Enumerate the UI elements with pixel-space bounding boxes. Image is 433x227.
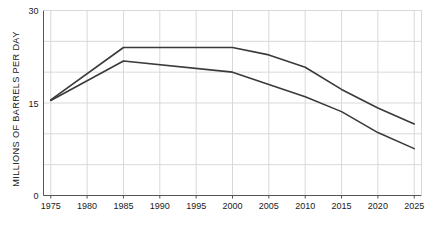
x-tick-label: 1985 [113, 201, 133, 211]
x-tick-label: 1995 [186, 201, 206, 211]
y-axis-tick-labels: 01530 [28, 6, 38, 201]
y-tick-label: 0 [33, 191, 38, 201]
x-tick-label: 1980 [77, 201, 97, 211]
chart-plot-area: 1975198019851990199520002005201020152020… [0, 0, 433, 227]
x-tick-label: 2005 [259, 201, 279, 211]
x-tick-label: 1990 [150, 201, 170, 211]
oil-production-line-chart: MILLIONS OF BARRELS PER DAY 197519801985… [0, 0, 433, 227]
y-tick-label: 15 [28, 99, 38, 109]
y-tick-label: 30 [28, 6, 38, 16]
x-tick-label: 2010 [295, 201, 315, 211]
x-tick-label: 1975 [41, 201, 61, 211]
x-tick-label: 2000 [222, 201, 242, 211]
x-tick-label: 2020 [368, 201, 388, 211]
x-axis-tick-labels: 1975198019851990199520002005201020152020… [41, 196, 424, 211]
x-tick-label: 2025 [404, 201, 424, 211]
x-tick-label: 2015 [332, 201, 352, 211]
